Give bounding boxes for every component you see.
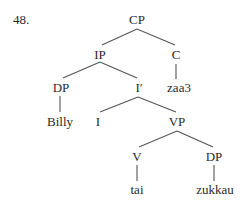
node-dp-object: DP — [206, 150, 223, 164]
node-zukkau: zukkau — [196, 183, 234, 197]
node-c: C — [172, 48, 181, 62]
edge-ip-ibar — [100, 62, 137, 78]
edge-ibar-vp — [138, 97, 176, 112]
node-i-bar: I′ — [135, 81, 142, 95]
node-dp-subject: DP — [53, 81, 70, 95]
edge-ibar-i — [100, 97, 138, 112]
node-billy: Billy — [47, 115, 73, 129]
node-tai: tai — [131, 183, 144, 197]
node-zaa3: zaa3 — [167, 81, 191, 95]
node-cp: CP — [129, 13, 145, 27]
node-i: I — [96, 115, 100, 129]
edge-ip-dp — [63, 62, 100, 78]
edge-cp-c — [137, 29, 175, 45]
edge-cp-ip — [102, 29, 137, 45]
node-v: V — [132, 150, 141, 164]
tree-edges — [0, 0, 244, 205]
edge-vp-v — [139, 131, 177, 147]
node-vp: VP — [169, 115, 186, 129]
node-ip: IP — [94, 48, 106, 62]
edge-vp-dp — [177, 131, 213, 147]
